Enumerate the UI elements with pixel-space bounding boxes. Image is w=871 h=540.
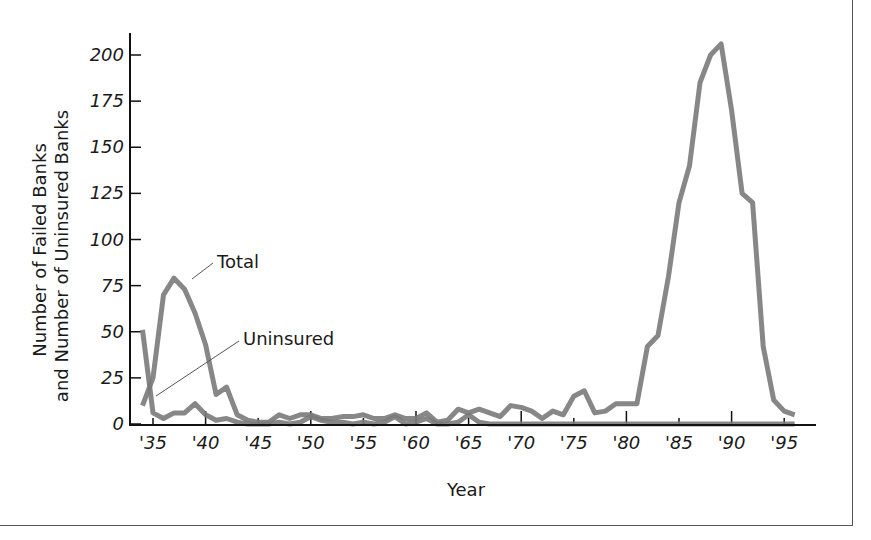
x-tick-label: '40 (192, 432, 220, 453)
y-axis-ticks: 0255075100125150175200 (90, 44, 141, 434)
x-tick-label: '35 (139, 432, 167, 453)
x-tick-label: '60 (402, 432, 430, 453)
total-leader-line (192, 263, 213, 279)
y-tick-label: 25 (101, 367, 124, 388)
x-tick-label: '95 (770, 432, 798, 453)
series-line-uninsured (143, 330, 795, 424)
x-tick-label: '55 (349, 432, 377, 453)
series-line-total (143, 44, 795, 422)
x-tick-label: '65 (455, 432, 483, 453)
data-series (143, 44, 795, 424)
y-tick-label: 150 (90, 136, 124, 157)
x-tick-label: '75 (560, 432, 588, 453)
x-tick-label: '80 (612, 432, 640, 453)
total-annotation: Total (216, 251, 259, 272)
y-tick-label: 0 (113, 413, 124, 434)
y-tick-label: 100 (90, 229, 124, 250)
x-tick-label: '85 (665, 432, 693, 453)
x-axis-title: Year (446, 479, 486, 500)
x-tick-label: '90 (718, 432, 746, 453)
y-axis-title-line1: Number of Failed Banks (29, 143, 50, 357)
x-tick-label: '45 (244, 432, 272, 453)
uninsured-annotation: Uninsured (243, 328, 334, 349)
y-tick-label: 75 (101, 275, 124, 296)
y-axis-title-line2: and Number of Uninsured Banks (51, 110, 72, 402)
line-chart: 0255075100125150175200 '35'40'45'50'55'6… (0, 0, 871, 540)
y-tick-label: 175 (90, 90, 124, 111)
x-tick-label: '50 (297, 432, 325, 453)
y-tick-label: 125 (90, 182, 124, 203)
x-tick-label: '70 (507, 432, 535, 453)
y-tick-label: 50 (101, 321, 124, 342)
y-tick-label: 200 (90, 44, 124, 65)
